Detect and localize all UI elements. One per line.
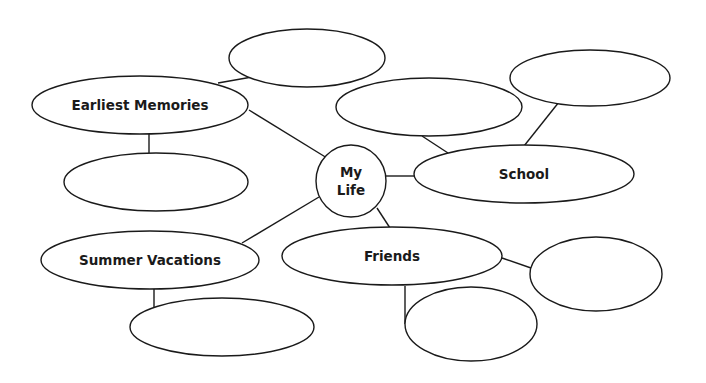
label-earliest-memories: Earliest Memories (72, 97, 209, 113)
connector-friends-to-blank-friends-right (502, 258, 531, 268)
node-blank-friends-right (530, 237, 662, 311)
center-label-line1: My (340, 164, 362, 180)
label-school: School (499, 166, 550, 182)
node-blank-school-right (510, 50, 670, 106)
connector-blank-school-left-to-school (422, 136, 448, 153)
node-blank-top (229, 29, 385, 87)
node-earliest-memories: Earliest Memories (32, 76, 248, 134)
blank-ellipse (336, 78, 522, 136)
connector-my-life-to-friends (377, 208, 390, 228)
mind-map-canvas: Earliest MemoriesSchoolSummer VacationsF… (0, 0, 706, 383)
mind-map-diagram: Earliest MemoriesSchoolSummer VacationsF… (0, 0, 706, 383)
connector-earliest-memories-to-blank-top (218, 77, 252, 83)
node-school: School (414, 145, 634, 203)
node-blank-under-friends (405, 287, 537, 361)
node-blank-school-left (336, 78, 522, 136)
blank-ellipse (510, 50, 670, 106)
blank-ellipse (130, 298, 314, 356)
blank-ellipse (64, 153, 248, 211)
connector-blank-school-right-to-school (524, 102, 559, 146)
center-circle (316, 145, 386, 217)
node-summer-vacations: Summer Vacations (41, 231, 259, 289)
blank-ellipse (530, 237, 662, 311)
node-blank-under-memories (64, 153, 248, 211)
connector-my-life-to-summer-vacations (242, 197, 319, 243)
connector-earliest-memories-to-my-life (249, 110, 327, 158)
center-label-line2: Life (337, 182, 365, 198)
label-friends: Friends (364, 248, 420, 264)
node-blank-under-vacations (130, 298, 314, 356)
node-friends: Friends (282, 227, 502, 285)
blank-ellipse (405, 287, 537, 361)
blank-ellipse (229, 29, 385, 87)
center-node: My Life (316, 145, 386, 217)
label-summer-vacations: Summer Vacations (79, 252, 221, 268)
